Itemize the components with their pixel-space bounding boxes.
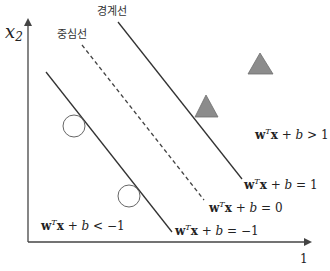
boundary-plus-line: [118, 22, 242, 179]
y-axis-label-main: x: [5, 21, 15, 42]
equation-zero: wTx + b = 0: [208, 200, 283, 215]
positive-sample-triangle: [195, 95, 218, 117]
negative-sample-circle: [63, 115, 85, 137]
equation-positive-region: wTx + b > 1: [254, 127, 329, 142]
x-axis-tick: 1: [300, 252, 308, 266]
y-axis-label-sub: 2: [14, 30, 23, 44]
svm-margin-diagram: x2 1 경계선 중심선 wTx + b > 1 wTx + b = 1 wTx…: [0, 0, 330, 271]
boundary-line-label: 경계선: [97, 5, 127, 18]
y-axis-label: x2: [5, 21, 23, 44]
equation-plus-one: wTx + b = 1: [243, 177, 318, 192]
negative-sample-circle: [118, 185, 140, 207]
center-dashed-line: [82, 45, 204, 200]
positive-sample-triangle: [248, 53, 273, 74]
boundary-minus-line: [46, 72, 172, 232]
equation-negative-region: wTx + b < −1: [40, 218, 125, 233]
center-line-label: 중심선: [57, 28, 87, 41]
equation-minus-one: wTx + b = −1: [174, 223, 259, 238]
